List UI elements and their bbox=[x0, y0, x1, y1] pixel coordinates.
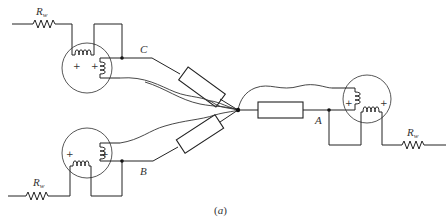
load-resistor-b bbox=[176, 110, 238, 153]
node-label-b: B bbox=[140, 165, 147, 177]
load-resistor-a bbox=[258, 102, 303, 118]
polarity-mark: + bbox=[66, 149, 74, 159]
three-phase-transformer-circuit-diagram: Rw + + C + + B bbox=[0, 0, 447, 219]
winding-resistor-top-left: Rw bbox=[12, 5, 72, 55]
rw-label-right: Rw bbox=[406, 126, 419, 140]
primary-coil-bottom-left bbox=[70, 161, 122, 196]
transformer-top-left bbox=[62, 43, 112, 93]
winding-resistor-bottom-left: Rw bbox=[8, 176, 70, 200]
primary-coil-top-left bbox=[72, 24, 122, 58]
polarity-mark: + bbox=[73, 61, 81, 71]
figure-caption: (a) bbox=[214, 204, 227, 217]
rw-label-top-left: Rw bbox=[35, 5, 48, 19]
polarity-mark: + bbox=[101, 149, 109, 159]
phase-c-source: Rw + + C bbox=[12, 5, 180, 93]
node-label-c: C bbox=[140, 43, 148, 55]
phase-b-source: + + B Rw bbox=[8, 128, 178, 200]
polarity-mark: + bbox=[380, 98, 388, 108]
winding-resistor-right: Rw bbox=[402, 126, 446, 149]
neutral-junction-node bbox=[236, 108, 240, 112]
load-resistor-c bbox=[179, 67, 238, 110]
polarity-mark: + bbox=[91, 61, 99, 71]
polarity-mark: + bbox=[345, 98, 353, 108]
primary-coil-right bbox=[329, 107, 402, 145]
node-label-a: A bbox=[314, 114, 322, 126]
rw-label-bottom-left: Rw bbox=[32, 176, 45, 190]
